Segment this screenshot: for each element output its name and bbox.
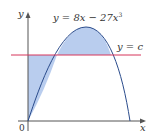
origin-label: 0 — [19, 123, 25, 133]
y-axis-label: y — [17, 8, 24, 19]
line-label: y = c — [116, 41, 143, 52]
y-axis-arrow-icon — [26, 12, 31, 18]
shaded-region-left — [28, 55, 57, 121]
curve-label: y = 8x − 27x3 — [52, 11, 123, 23]
shaded-region-top — [57, 27, 111, 55]
graph: y = 8x − 27x3 y = c y x 0 — [0, 0, 153, 139]
x-axis-label: x — [140, 122, 146, 133]
